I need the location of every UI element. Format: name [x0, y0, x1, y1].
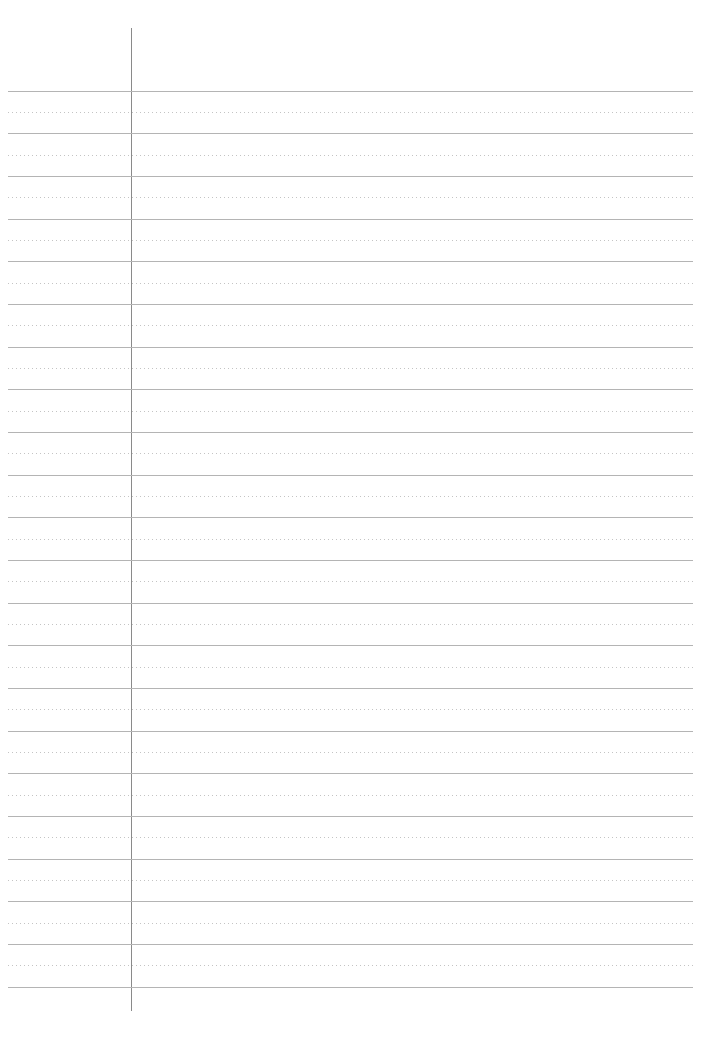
solid-rule-line	[8, 560, 693, 561]
solid-rule-line	[8, 261, 693, 262]
dotted-guide-line	[8, 624, 693, 625]
dotted-guide-line	[8, 880, 693, 881]
solid-rule-line	[8, 645, 693, 646]
solid-rule-line	[8, 432, 693, 433]
dotted-guide-line	[8, 112, 693, 113]
solid-rule-line	[8, 389, 693, 390]
solid-rule-line	[8, 475, 693, 476]
solid-rule-line	[8, 304, 693, 305]
dotted-guide-line	[8, 368, 693, 369]
dotted-guide-line	[8, 453, 693, 454]
solid-rule-line	[8, 987, 693, 988]
solid-rule-line	[8, 603, 693, 604]
solid-rule-line	[8, 219, 693, 220]
solid-rule-line	[8, 944, 693, 945]
dotted-guide-line	[8, 155, 693, 156]
dotted-guide-line	[8, 965, 693, 966]
dotted-guide-line	[8, 795, 693, 796]
dotted-guide-line	[8, 837, 693, 838]
dotted-guide-line	[8, 197, 693, 198]
dotted-guide-line	[8, 411, 693, 412]
dotted-guide-line	[8, 667, 693, 668]
dotted-guide-line	[8, 539, 693, 540]
dotted-guide-line	[8, 240, 693, 241]
solid-rule-line	[8, 347, 693, 348]
solid-rule-line	[8, 517, 693, 518]
solid-rule-line	[8, 176, 693, 177]
solid-rule-line	[8, 859, 693, 860]
solid-rule-line	[8, 816, 693, 817]
dotted-guide-line	[8, 923, 693, 924]
solid-rule-line	[8, 688, 693, 689]
dotted-guide-line	[8, 709, 693, 710]
dotted-guide-line	[8, 325, 693, 326]
dotted-guide-line	[8, 283, 693, 284]
solid-rule-line	[8, 773, 693, 774]
dotted-guide-line	[8, 581, 693, 582]
solid-rule-line	[8, 731, 693, 732]
dotted-guide-line	[8, 752, 693, 753]
solid-rule-line	[8, 901, 693, 902]
solid-rule-line	[8, 133, 693, 134]
lined-paper-page	[0, 0, 716, 1054]
solid-rule-line	[8, 91, 693, 92]
dotted-guide-line	[8, 496, 693, 497]
